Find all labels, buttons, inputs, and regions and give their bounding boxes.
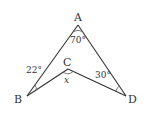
vertex-label-C: C bbox=[63, 56, 71, 69]
angle-label-D: 30° bbox=[95, 70, 111, 80]
angle-arc-B bbox=[35, 85, 36, 90]
vertex-label-A: A bbox=[73, 11, 83, 24]
vertex-label-D: D bbox=[128, 93, 137, 106]
angle-arc-D bbox=[116, 86, 120, 91]
angle-label-A: 70° bbox=[70, 35, 86, 45]
angle-arc-A bbox=[74, 30, 83, 31]
angle-label-C: x bbox=[64, 75, 69, 85]
geometry-figure: A B C D 70° 22° x 30° bbox=[0, 0, 149, 119]
angle-label-B: 22° bbox=[26, 65, 42, 75]
vertex-label-B: B bbox=[14, 93, 22, 106]
